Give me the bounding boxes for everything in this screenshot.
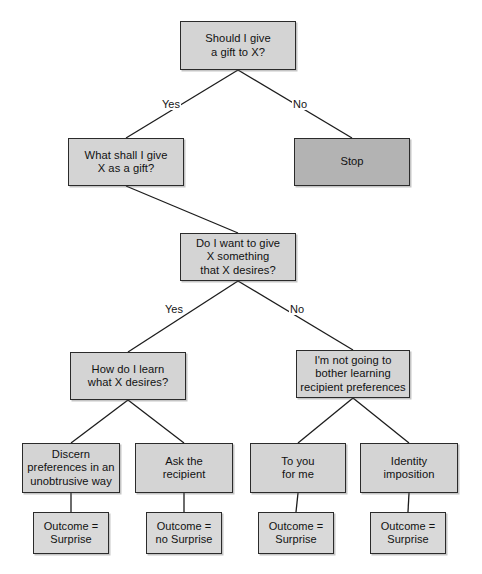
connector-e-root-yes xyxy=(126,70,238,138)
node-what-gift[interactable]: What shall I give X as a gift? xyxy=(68,138,184,186)
connector-e-what-des xyxy=(126,186,238,233)
node-label-discern: Discern preferences in an unobtrusive wa… xyxy=(24,448,117,488)
node-label-how-learn: How do I learn what X desires? xyxy=(85,363,171,390)
node-ask[interactable]: Ask the recipient xyxy=(135,443,233,493)
node-desires[interactable]: Do I want to give X something that X des… xyxy=(180,233,296,281)
node-out-3[interactable]: Outcome = Surprise xyxy=(258,512,334,554)
connector-e-des-yes xyxy=(128,281,238,352)
node-label-what-gift: What shall I give X as a gift? xyxy=(82,149,171,176)
edge-label-lbl-no-1: No xyxy=(292,98,308,110)
node-label-out-1: Outcome = Surprise xyxy=(41,520,102,547)
node-label-to-you: To you for me xyxy=(278,455,317,482)
connector-e-not-toyou xyxy=(298,398,353,443)
node-label-out-4: Outcome = Surprise xyxy=(378,520,439,547)
connector-e-toyou-o3 xyxy=(296,493,298,512)
node-identity[interactable]: Identity imposition xyxy=(360,443,458,493)
node-label-not-bother: I'm not going to bother learning recipie… xyxy=(297,354,409,394)
node-to-you[interactable]: To you for me xyxy=(250,443,346,493)
edge-label-lbl-yes-1: Yes xyxy=(161,98,181,110)
node-label-identity: Identity imposition xyxy=(381,455,438,482)
node-label-out-2: Outcome = no Surprise xyxy=(153,520,216,547)
edge-label-lbl-yes-2: Yes xyxy=(164,303,184,315)
node-label-out-3: Outcome = Surprise xyxy=(266,520,327,547)
node-discern[interactable]: Discern preferences in an unobtrusive wa… xyxy=(22,443,120,493)
connector-e-how-disc xyxy=(71,400,128,443)
node-out-1[interactable]: Outcome = Surprise xyxy=(33,512,109,554)
flowchart-canvas: Should I give a gift to X?What shall I g… xyxy=(0,0,482,574)
node-label-stop: Stop xyxy=(337,155,366,168)
connector-e-ident-o4 xyxy=(408,493,409,512)
node-out-2[interactable]: Outcome = no Surprise xyxy=(146,512,222,554)
edge-label-lbl-no-2: No xyxy=(289,303,305,315)
node-root[interactable]: Should I give a gift to X? xyxy=(180,21,296,70)
node-label-root: Should I give a gift to X? xyxy=(202,32,273,59)
node-out-4[interactable]: Outcome = Surprise xyxy=(370,512,446,554)
connector-e-not-ident xyxy=(353,398,409,443)
node-stop[interactable]: Stop xyxy=(294,138,410,186)
node-label-ask: Ask the recipient xyxy=(160,455,209,482)
node-label-desires: Do I want to give X something that X des… xyxy=(193,237,283,277)
node-how-learn[interactable]: How do I learn what X desires? xyxy=(70,352,186,400)
connector-e-des-no xyxy=(238,281,353,350)
node-not-bother[interactable]: I'm not going to bother learning recipie… xyxy=(296,350,410,398)
connector-e-how-ask xyxy=(128,400,184,443)
